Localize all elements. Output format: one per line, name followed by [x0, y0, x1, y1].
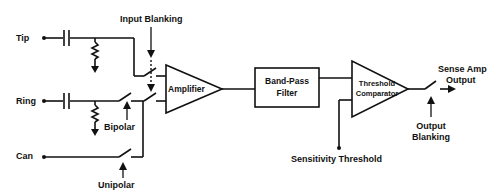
output-blanking-label-line1: Output — [416, 121, 446, 131]
ring-label: Ring — [16, 96, 36, 106]
threshold-comparator-block: Threshold Comparator — [352, 61, 408, 117]
sensitivity-threshold-label: Sensitivity Threshold — [291, 154, 382, 164]
sense-amplifier-block-diagram: Tip Input Blanking Ring — [0, 0, 498, 192]
comparator-label-line2: Comparator — [356, 89, 399, 98]
bipolar-arrow-icon — [123, 101, 131, 109]
amplifier-block: Amplifier — [166, 65, 222, 113]
output-blanking-switch — [425, 81, 436, 89]
tip-capacitor-icon — [64, 30, 69, 46]
input-blanking-arrow-icon — [147, 50, 155, 58]
tip-input: Tip — [16, 30, 166, 76]
ring-ground-arrow-icon — [91, 129, 99, 136]
bipolar-label: Bipolar — [104, 122, 136, 132]
bandpass-label-line2: Filter — [277, 88, 298, 98]
unipolar-switch — [119, 149, 131, 157]
ring-capacitor-icon — [64, 93, 69, 109]
comparator-label-line1: Threshold — [359, 79, 396, 88]
input-blanking-arrow-lower-icon — [147, 84, 155, 92]
output-blanking-arrow-icon — [427, 96, 435, 104]
input-blanking-label: Input Blanking — [120, 14, 183, 24]
output-blanking-control: Output Blanking — [412, 96, 450, 142]
output-label-line2: Output — [446, 75, 476, 85]
sensitivity-threshold-terminal — [337, 146, 341, 150]
unipolar-arrow-icon — [119, 162, 127, 170]
output-blanking-label-line2: Blanking — [412, 132, 450, 142]
ring-resistor-icon — [91, 101, 99, 136]
bandpass-label-line1: Band-Pass — [265, 76, 309, 86]
bipolar-control: Bipolar — [104, 101, 136, 132]
ring-blanking-switch — [144, 93, 156, 101]
unipolar-control: Unipolar — [98, 162, 135, 190]
bandpass-filter-block: Band-Pass Filter — [255, 68, 319, 107]
tip-label: Tip — [16, 33, 30, 43]
output-label-line1: Sense Amp — [438, 64, 487, 74]
amplifier-label: Amplifier — [168, 84, 206, 94]
output-stage: Sense Amp Output — [408, 64, 487, 93]
tip-ground-arrow-icon — [91, 66, 99, 73]
tip-blanking-switch — [144, 68, 156, 76]
tip-resistor-icon — [91, 38, 99, 73]
unipolar-label: Unipolar — [98, 180, 135, 190]
can-label: Can — [16, 151, 33, 161]
output-arrow-icon — [448, 85, 456, 93]
bipolar-switch — [119, 93, 131, 101]
